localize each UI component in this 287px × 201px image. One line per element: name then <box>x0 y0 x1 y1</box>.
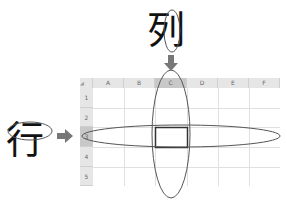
row-ellipse <box>82 125 280 147</box>
column-ellipse <box>152 70 190 198</box>
down-arrow-icon <box>164 55 178 71</box>
annotation-overlay <box>0 0 287 201</box>
column-char-ellipse <box>164 10 180 52</box>
row-char-ellipse <box>8 122 52 140</box>
active-cell-c3[interactable] <box>156 128 188 148</box>
right-arrow-icon <box>57 129 73 143</box>
